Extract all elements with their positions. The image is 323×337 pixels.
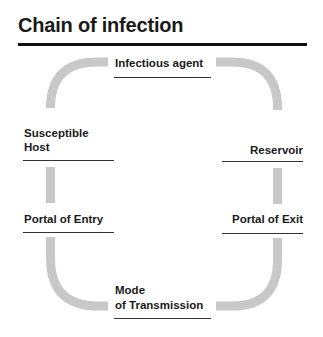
node-infectious-agent: Infectious agent <box>115 56 203 70</box>
node-reservoir: Reservoir <box>250 143 303 157</box>
arc-bottom-left <box>51 237 109 306</box>
rule-susceptible-host <box>23 160 114 161</box>
rule-portal-of-exit <box>222 233 303 234</box>
node-susceptible-host-line1: Susceptible <box>24 126 89 140</box>
cycle-arrows <box>0 0 323 337</box>
rule-reservoir <box>222 161 303 162</box>
node-portal-of-exit: Portal of Exit <box>232 212 303 226</box>
arc-top-left <box>51 62 109 108</box>
node-mode-line2: of Transmission <box>115 298 203 312</box>
rule-infectious-agent <box>114 77 211 78</box>
node-portal-of-entry: Portal of Entry <box>24 212 103 226</box>
arc-top-right <box>216 62 278 110</box>
rule-mode-of-transmission <box>114 318 211 319</box>
node-mode-line1: Mode <box>115 283 145 297</box>
rule-portal-of-entry <box>23 232 114 233</box>
arc-bottom-right <box>216 238 278 306</box>
node-susceptible-host-line2: Host <box>24 140 50 154</box>
